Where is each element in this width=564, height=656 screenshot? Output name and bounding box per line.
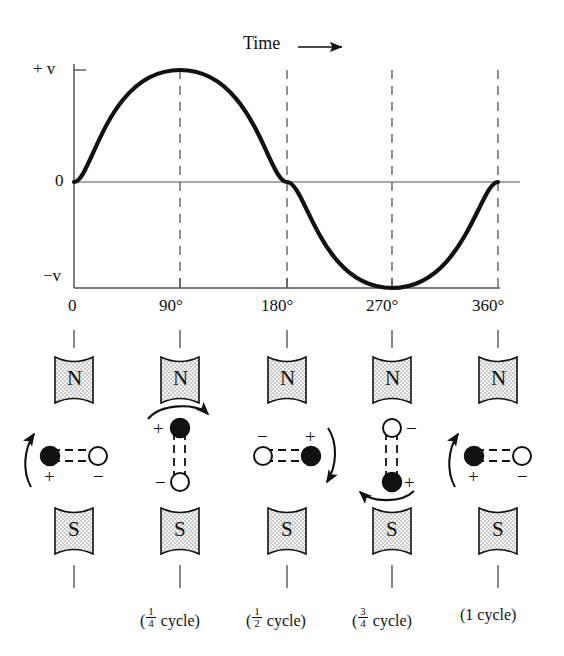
x-tick-label-0: 0 <box>68 296 77 316</box>
charge-negative-dot <box>513 447 531 465</box>
charge-positive-dot <box>302 447 321 466</box>
charge-sign-positive: + <box>404 472 415 494</box>
pole-label-south: S <box>68 517 80 542</box>
cycle-label-three-quarter: (34 cycle) <box>352 606 412 630</box>
charge-sign-positive: + <box>44 466 55 488</box>
charge-sign-negative: − <box>406 418 417 440</box>
pole-label-south: S <box>281 517 293 542</box>
cycle-label-quarter: (14 cycle) <box>140 606 200 630</box>
cycle-open-paren: ( <box>246 612 251 629</box>
x-tick-label-180: 180° <box>261 296 293 316</box>
cycle-label-full: (1 cycle) <box>460 606 516 624</box>
pole-label-north: N <box>385 366 400 391</box>
figure-canvas <box>0 0 564 656</box>
charge-negative-dot <box>254 447 272 465</box>
x-tick-label-270: 270° <box>366 296 398 316</box>
cycle-text: cycle) <box>157 612 200 629</box>
charge-sign-negative: − <box>155 472 166 494</box>
charge-sign-positive: + <box>468 466 479 488</box>
charge-negative-dot <box>89 447 107 465</box>
charge-sign-positive: + <box>305 426 316 448</box>
y-label-zero: 0 <box>55 171 64 191</box>
pole-label-north: N <box>173 366 188 391</box>
pole-label-south: S <box>174 517 186 542</box>
charge-positive-dot <box>383 473 402 492</box>
sine-wave-curve <box>74 70 498 288</box>
cycle-label-half: (12 cycle) <box>246 606 306 630</box>
charge-positive-dot <box>171 419 190 438</box>
charge-negative-dot <box>383 419 401 437</box>
pole-label-north: N <box>280 366 295 391</box>
fraction-three-quarters: 34 <box>358 606 368 629</box>
charge-sign-positive: + <box>153 418 164 440</box>
charge-positive-dot <box>465 447 484 466</box>
charge-negative-dot <box>171 473 189 491</box>
column-connectors-top <box>74 330 498 348</box>
cycle-text: cycle) <box>369 612 412 629</box>
charge-positive-dot <box>41 447 60 466</box>
column-connectors-bottom <box>74 565 498 588</box>
y-label-negative: −v <box>43 266 61 286</box>
pole-label-north: N <box>67 366 82 391</box>
fraction-one-half: 12 <box>252 606 262 629</box>
charge-sign-negative: − <box>517 466 528 488</box>
rotation-arrow <box>327 428 335 482</box>
cycle-text: cycle) <box>263 612 306 629</box>
pole-label-south: S <box>492 517 504 542</box>
rotation-arrow <box>25 434 34 487</box>
x-tick-label-90: 90° <box>159 296 183 316</box>
time-axis-label: Time <box>243 33 280 54</box>
y-label-positive: + v <box>33 59 55 79</box>
charge-sign-negative: − <box>93 466 104 488</box>
cycle-open-paren: ( <box>352 612 357 629</box>
pole-label-south: S <box>386 517 398 542</box>
pole-label-north: N <box>491 366 506 391</box>
charge-sign-negative: − <box>257 426 268 448</box>
cycle-open-paren: ( <box>140 612 145 629</box>
ac-dipole-rotation-figure: Time + v 0 −v 0 90° 180° 270° 360° N N N… <box>0 0 564 656</box>
rotation-arrow <box>449 434 458 487</box>
x-tick-label-360: 360° <box>472 296 504 316</box>
fraction-one-quarter: 14 <box>146 606 156 629</box>
